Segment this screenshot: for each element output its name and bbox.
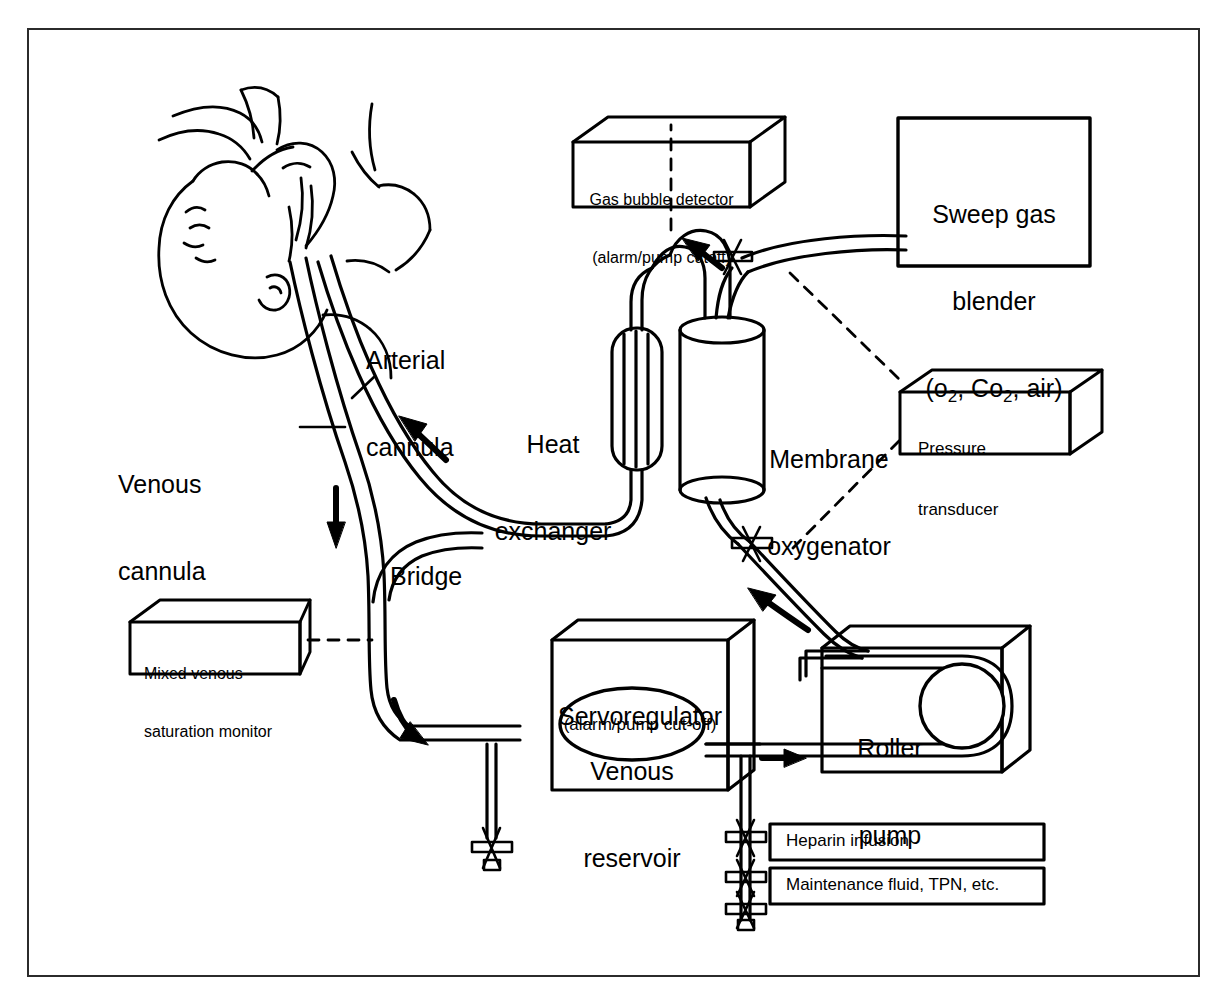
sweep-gas-blender-line1: Sweep gas [898,200,1090,229]
heat-exchanger-line2: exchanger [478,517,628,546]
gas-bubble-detector-line2: (alarm/pump cutoff) [573,248,750,267]
pressure-transducer-line2: transducer [918,500,1068,520]
membrane-oxygenator-line2: oxygenator [744,532,914,561]
arrow-venous-down [327,488,345,548]
gas-bubble-detector-label: Gas bubble detector (alarm/pump cutoff) [573,152,750,306]
venous-reservoir-label: Venous reservoir [560,699,704,931]
stopcock-heparin [726,820,766,856]
heparin-infusion-label: Heparin infusion [786,831,1036,851]
left-drain-line [487,744,496,838]
stopcock-maintenance [726,860,766,896]
stopcock-bottom [726,892,766,930]
roller-pump-line1: Roller [830,734,950,763]
venous-cannula-line2: cannula [118,557,298,586]
membrane-oxygenator-label: Membrane oxygenator [744,387,914,619]
arterial-cannula-line2: cannula [366,433,536,462]
mixed-venous-monitor-label: Mixed venous saturation monitor [144,626,304,780]
arterial-cannula-label: Arterial cannula [366,288,536,520]
dashed-blender-to-transducer-upper [790,273,900,380]
sweep-gas-blender-line2: blender [898,287,1090,316]
bridge-label: Bridge [390,562,500,591]
venous-reservoir-line1: Venous [560,757,704,786]
venous-cannula-line1: Venous [118,470,298,499]
membrane-oxygenator-line1: Membrane [744,445,914,474]
figure-canvas: Gas bubble detector (alarm/pump cutoff) … [0,0,1223,999]
maintenance-fluid-label: Maintenance fluid, TPN, etc. [786,875,1036,895]
pressure-transducer-label: Pressure transducer [918,398,1068,561]
mixed-venous-monitor-line2: saturation monitor [144,722,304,741]
roller-pump-label: Roller pump [830,676,950,908]
gas-bubble-detector-line1: Gas bubble detector [573,190,750,209]
pressure-transducer-line1: Pressure [918,439,1068,459]
venous-cannula-label: Venous cannula [118,412,298,644]
mixed-venous-monitor-line1: Mixed venous [144,664,304,683]
arrow-reservoir-to-pump [762,749,806,767]
arterial-cannula-line1: Arterial [366,346,536,375]
venous-reservoir-line2: reservoir [560,844,704,873]
stopcock-left-drain [472,828,512,870]
